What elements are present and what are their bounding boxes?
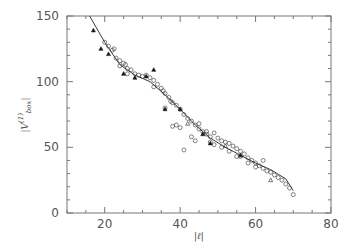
data-point-triangle — [144, 74, 148, 78]
data-point-circle — [227, 149, 231, 153]
x-tick-label: 80 — [323, 217, 338, 231]
y-tick-label: 100 — [36, 75, 59, 89]
data-point-circle — [182, 148, 186, 152]
axis-ticks: 20406080050100150 — [36, 9, 339, 231]
data-point-circle — [174, 123, 178, 127]
data-point-circle — [261, 166, 265, 170]
data-point-circle — [235, 147, 239, 151]
data-point-circle — [171, 124, 175, 128]
data-point-triangle — [163, 107, 167, 111]
data-point-circle — [284, 182, 288, 186]
data-point-circle — [212, 131, 216, 135]
data-point-circle — [276, 176, 280, 180]
data-point-circle — [261, 158, 265, 162]
fit-line — [90, 16, 294, 191]
data-points — [91, 28, 295, 196]
y-tick-label: 0 — [51, 206, 59, 220]
data-point-circle — [125, 72, 129, 76]
data-point-circle — [193, 139, 197, 143]
data-point-triangle — [208, 141, 212, 145]
data-point-circle — [140, 74, 144, 78]
y-tick-label: 50 — [44, 140, 59, 154]
data-point-circle — [148, 76, 152, 80]
data-point-circle — [242, 152, 246, 156]
x-axis-label: |ℓ| — [194, 231, 204, 242]
data-point-circle — [129, 68, 133, 72]
data-point-circle — [197, 122, 201, 126]
data-point-circle — [246, 161, 250, 165]
data-point-circle — [220, 139, 224, 143]
data-point-circle — [291, 193, 295, 197]
data-point-circle — [269, 170, 273, 174]
data-point-circle — [189, 135, 193, 139]
data-point-triangle — [269, 178, 273, 182]
data-point-circle — [227, 141, 231, 145]
data-point-circle — [212, 143, 216, 147]
data-point-circle — [235, 155, 239, 159]
data-point-circle — [156, 82, 160, 86]
data-point-triangle — [91, 28, 95, 32]
data-point-triangle — [99, 47, 103, 51]
data-point-circle — [220, 145, 224, 149]
data-point-circle — [288, 186, 292, 190]
data-point-circle — [272, 173, 276, 177]
x-tick-label: 60 — [248, 217, 263, 231]
data-point-circle — [254, 165, 258, 169]
data-point-circle — [118, 59, 122, 63]
data-point-triangle — [106, 52, 110, 56]
data-point-circle — [152, 78, 156, 82]
x-tick-label: 20 — [97, 217, 112, 231]
y-axis-label: |V(1)box| — [17, 97, 33, 132]
y-tick-label: 150 — [36, 9, 59, 23]
data-point-circle — [265, 169, 269, 173]
data-point-circle — [231, 144, 235, 148]
x-tick-label: 40 — [173, 217, 188, 231]
data-point-circle — [280, 178, 284, 182]
data-point-triangle — [152, 68, 156, 72]
data-point-circle — [216, 136, 220, 140]
data-point-circle — [178, 126, 182, 130]
scatter-chart: 20406080050100150 |ℓ| |V(1)box| — [0, 0, 352, 248]
data-point-triangle — [122, 72, 126, 76]
data-point-triangle — [186, 121, 190, 125]
data-point-circle — [205, 130, 209, 134]
